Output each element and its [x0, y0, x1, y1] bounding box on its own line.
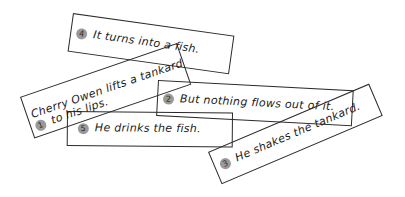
number-badge-2: 2 — [163, 93, 175, 105]
number-badge-4: 4 — [75, 28, 87, 40]
number-badge-1: 1 — [34, 118, 48, 132]
card-5-text: He drinks the fish. — [95, 122, 201, 136]
number-badge-3: 3 — [218, 156, 232, 170]
number-badge-5: 5 — [78, 123, 89, 134]
